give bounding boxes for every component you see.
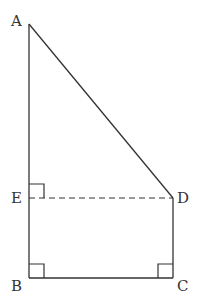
right-angle-marker-E [29,184,44,198]
right-angle-marker-C [158,264,173,278]
label-C: C [177,277,188,295]
segment-DA [29,24,173,198]
quadrilateral-diagram: A E D B C [0,0,202,308]
label-E: E [11,189,22,207]
label-D: D [177,189,189,207]
label-A: A [10,12,22,30]
label-B: B [11,277,22,295]
right-angle-marker-B [29,264,44,278]
